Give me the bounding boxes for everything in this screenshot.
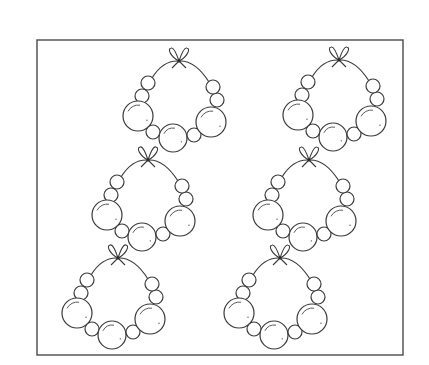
bead-right-small-upper: [145, 277, 159, 291]
bead-sparkle: [158, 323, 159, 324]
bow-knot: [278, 256, 281, 259]
necklace-string: [152, 61, 209, 82]
bead-right-large: [356, 106, 386, 136]
bead-left-small-lower: [247, 322, 261, 336]
bead-sparkle: [150, 240, 151, 241]
bead-sparkle: [320, 323, 321, 324]
necklace-top-right: [283, 47, 386, 151]
necklace-string: [282, 160, 339, 181]
bead-sparkle: [247, 317, 248, 318]
necklace-illustration: [0, 0, 429, 365]
bead-sparkle: [282, 338, 283, 339]
bead-left-small-upper: [141, 76, 155, 90]
bead-sparkle: [311, 240, 312, 241]
bead-right-small-middle: [340, 192, 354, 206]
bead-left-small-upper: [301, 75, 315, 89]
bead-right-small-upper: [307, 277, 321, 291]
bow-icon: [329, 47, 348, 67]
bead-sparkle: [349, 225, 350, 226]
necklace-string: [312, 60, 369, 81]
bead-right-large: [165, 206, 195, 236]
bead-right-small-middle: [149, 290, 163, 304]
bead-right-small-middle: [210, 93, 224, 107]
bow-knot: [307, 158, 310, 161]
bead-right-large: [196, 107, 226, 137]
bead-left-small-upper: [242, 273, 256, 287]
bow-icon: [108, 245, 127, 265]
necklace-string: [121, 160, 178, 181]
bead-sparkle: [120, 338, 121, 339]
bead-sparkle: [379, 125, 380, 126]
bead-sparkle: [341, 140, 342, 141]
bead-left-small-upper: [80, 273, 94, 287]
necklace-bottom-left: [62, 245, 165, 349]
necklace-string: [253, 258, 310, 279]
bow-knot: [116, 256, 119, 259]
necklace-string: [91, 258, 148, 279]
bow-knot: [146, 158, 149, 161]
bead-right-large: [135, 304, 165, 334]
bead-left-small-lower: [85, 322, 99, 336]
bead-sparkle: [85, 317, 86, 318]
bow-knot: [337, 58, 340, 61]
bead-left-small-upper: [271, 175, 285, 189]
bead-sparkle: [115, 219, 116, 220]
bead-right-small-middle: [179, 192, 193, 206]
bow-icon: [169, 48, 188, 68]
necklaces-group: [62, 47, 386, 349]
bead-sparkle: [146, 120, 147, 121]
bead-left-small-lower: [306, 124, 320, 138]
bow-icon: [270, 245, 289, 265]
bead-sparkle: [276, 219, 277, 220]
bead-right-small-middle: [311, 290, 325, 304]
necklace-top-left: [123, 48, 226, 152]
necklace-middle-left: [92, 147, 195, 251]
bead-right-small-upper: [175, 179, 189, 193]
bead-sparkle: [219, 126, 220, 127]
bead-left-small-lower: [115, 224, 129, 238]
bead-right-small-upper: [336, 179, 350, 193]
bead-left-small-lower: [276, 224, 290, 238]
bead-right-small-middle: [370, 92, 384, 106]
bead-right-small-upper: [206, 80, 220, 94]
bow-icon: [138, 147, 157, 167]
bead-sparkle: [188, 225, 189, 226]
necklace-bottom-right: [224, 245, 327, 349]
bow-icon: [299, 147, 318, 167]
necklace-middle-right: [253, 147, 356, 251]
bead-right-large: [326, 206, 356, 236]
bead-sparkle: [306, 119, 307, 120]
bead-left-small-upper: [110, 175, 124, 189]
bead-sparkle: [181, 141, 182, 142]
bead-right-large: [297, 304, 327, 334]
bead-left-small-lower: [146, 125, 160, 139]
bow-knot: [177, 59, 180, 62]
bead-right-small-upper: [366, 79, 380, 93]
